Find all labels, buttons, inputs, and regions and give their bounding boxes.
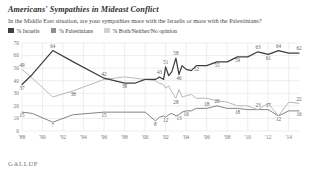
svg-text:38: 38 [71, 90, 77, 96]
legend-item-palestinians: % Palestinians [51, 28, 93, 34]
svg-text:61: 61 [266, 54, 272, 60]
svg-text:58: 58 [173, 50, 179, 56]
gallup-logo: GALLUP [8, 160, 38, 167]
chart-subtitle: In the Middle East situation, are your s… [8, 17, 303, 24]
svg-text:64: 64 [276, 42, 282, 48]
svg-text:16: 16 [296, 111, 302, 117]
legend-swatch-israelis [8, 28, 14, 34]
x-axis-ticks: '88'90'92'94'96'98'00'02'04'06'08'10'12'… [19, 134, 292, 140]
svg-text:16: 16 [184, 111, 190, 117]
chart-series-lines [22, 50, 299, 122]
svg-text:55: 55 [214, 62, 220, 68]
svg-text:51: 51 [163, 59, 169, 65]
svg-text:43: 43 [157, 69, 163, 75]
svg-text:'90: '90 [39, 134, 46, 140]
svg-text:18: 18 [204, 100, 210, 106]
svg-text:63: 63 [255, 44, 261, 50]
page-title: Americans' Sympathies in Mideast Conflic… [8, 5, 303, 14]
svg-text:'98: '98 [121, 134, 128, 140]
svg-text:'02: '02 [162, 134, 169, 140]
svg-text:'88: '88 [19, 134, 26, 140]
svg-text:15: 15 [19, 112, 25, 118]
gallup-chart-card: Americans' Sympathies in Mideast Conflic… [0, 0, 309, 172]
svg-text:23: 23 [255, 102, 261, 108]
svg-text:37: 37 [19, 84, 25, 90]
svg-text:12: 12 [163, 117, 169, 123]
legend-label-palestinians: % Palestinians [59, 28, 93, 34]
svg-text:60: 60 [14, 52, 20, 58]
svg-text:10: 10 [14, 115, 20, 121]
svg-text:52: 52 [194, 65, 200, 71]
svg-text:'06: '06 [203, 134, 210, 140]
y-axis-ticks: 010203040506070 [14, 39, 20, 133]
svg-text:64: 64 [50, 42, 56, 48]
svg-text:15: 15 [102, 112, 108, 118]
svg-text:'10: '10 [245, 134, 252, 140]
svg-text:49: 49 [19, 61, 25, 67]
svg-text:'94: '94 [80, 134, 87, 140]
svg-text:8: 8 [154, 121, 157, 127]
svg-text:50: 50 [14, 65, 20, 71]
svg-text:'92: '92 [60, 134, 67, 140]
legend-item-israelis: % Israelis [8, 28, 40, 34]
legend-label-israelis: % Israelis [17, 28, 40, 34]
svg-text:13: 13 [176, 114, 182, 120]
svg-text:12: 12 [276, 116, 282, 122]
svg-text:'00: '00 [142, 134, 149, 140]
chart-legend: % Israelis % Palestinians % Both/Neither… [8, 28, 303, 34]
legend-swatch-both [104, 28, 110, 34]
footer-divider [0, 171, 309, 172]
svg-text:62: 62 [296, 45, 302, 51]
svg-text:'04: '04 [183, 134, 190, 140]
svg-text:'96: '96 [101, 134, 108, 140]
svg-text:17: 17 [266, 102, 272, 108]
svg-text:'12: '12 [265, 134, 272, 140]
svg-text:42: 42 [102, 70, 108, 76]
svg-text:0: 0 [16, 127, 19, 133]
svg-text:28: 28 [173, 98, 179, 104]
chart-plot-area: 010203040506070 '88'90'92'94'96'98'00'02… [6, 37, 303, 145]
svg-text:'08: '08 [224, 134, 231, 140]
svg-text:40: 40 [14, 77, 20, 83]
svg-text:46: 46 [176, 74, 182, 80]
legend-item-both: % Both/Neither/No opinion [104, 28, 177, 34]
svg-text:20: 20 [214, 98, 220, 104]
legend-swatch-palestinians [51, 28, 57, 34]
svg-text:38: 38 [122, 83, 128, 89]
svg-text:30: 30 [14, 90, 20, 96]
legend-label-both: % Both/Neither/No opinion [113, 28, 177, 34]
line-chart-svg: 010203040506070 '88'90'92'94'96'98'00'02… [6, 37, 303, 145]
svg-text:22: 22 [296, 95, 302, 101]
svg-text:7: 7 [52, 122, 55, 128]
svg-text:20: 20 [14, 102, 20, 108]
svg-text:18: 18 [235, 108, 241, 114]
svg-text:70: 70 [14, 39, 20, 45]
svg-text:'14: '14 [286, 134, 293, 140]
svg-text:59: 59 [235, 57, 241, 63]
